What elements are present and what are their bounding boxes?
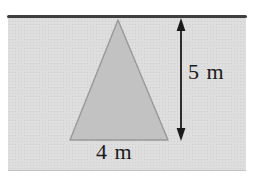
height-dimension-label: 5 m (188, 61, 225, 83)
arrowhead-up-icon (177, 18, 186, 31)
figure-canvas: 5 m 4 m (0, 0, 253, 191)
triangle-shape (70, 20, 168, 140)
arrowhead-down-icon (177, 128, 186, 141)
height-arrow (177, 18, 186, 141)
base-dimension-label: 4 m (96, 141, 133, 163)
